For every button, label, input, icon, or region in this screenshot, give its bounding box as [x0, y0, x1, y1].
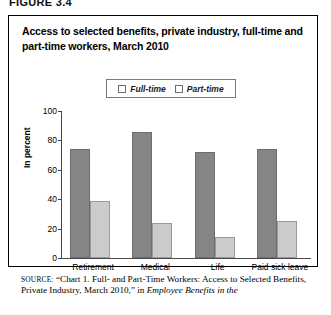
chart-panel: Access to selected benefits, private ind…: [8, 15, 318, 267]
bar-full-time: [132, 132, 152, 258]
x-category-label: Life: [187, 262, 249, 272]
bar-group: [187, 111, 249, 258]
bar-full-time: [70, 149, 90, 258]
plot-area: In percent 100806040200 RetirementMedica…: [9, 16, 319, 268]
bar-part-time: [277, 221, 297, 258]
x-category-label: Medical: [124, 262, 186, 272]
y-tick-label: 100: [33, 106, 57, 116]
y-axis-tick-labels: 100806040200: [33, 111, 57, 259]
y-tick-label: 40: [33, 194, 57, 204]
y-tick-label: 0: [33, 253, 57, 263]
bar-group: [249, 111, 311, 258]
y-axis-label: In percent: [22, 127, 32, 168]
bar-part-time: [215, 237, 235, 258]
source-note: SOURCE: “Chart 1. Full- and Part-Time Wo…: [21, 274, 311, 297]
x-category-label: Paid sick leave: [249, 262, 311, 272]
bar-group: [62, 111, 124, 258]
y-tick-label: 60: [33, 165, 57, 175]
y-tick-label: 20: [33, 224, 57, 234]
bar-full-time: [195, 152, 215, 258]
bar-groups: [62, 111, 311, 258]
bar-full-time: [257, 149, 277, 258]
figure-label: FIGURE 3.4: [9, 0, 169, 10]
bar-group: [124, 111, 186, 258]
source-publication: Employee Benefits in the: [147, 285, 238, 295]
y-tick-label: 80: [33, 135, 57, 145]
x-category-label: Retirement: [62, 262, 124, 272]
x-axis-category-labels: RetirementMedicalLifePaid sick leave: [62, 262, 311, 272]
bar-part-time: [152, 223, 172, 258]
bar-part-time: [90, 201, 110, 258]
source-prefix: SOURCE:: [21, 275, 54, 284]
